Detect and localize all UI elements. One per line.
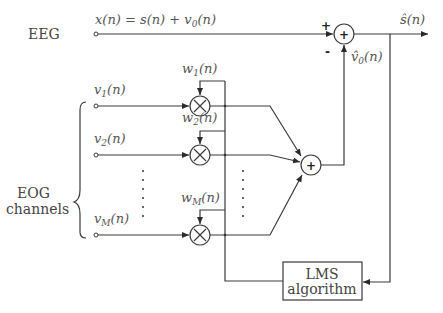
error-feedback-wire xyxy=(363,34,390,282)
weight-wire-m xyxy=(200,210,225,224)
junction xyxy=(224,234,227,237)
eeg-label: EEG xyxy=(28,26,60,42)
product-ellipsis xyxy=(242,170,244,217)
eog-label-line2: channels xyxy=(6,201,69,217)
input-label-1: v1(n) xyxy=(94,82,126,99)
lms-label-line2: algorithm xyxy=(287,281,356,297)
weight-bus xyxy=(225,81,283,281)
block-diagram: EEG x(n) = s(n) + v0(n) + + - ŝ(n) v̂0(n… xyxy=(0,0,443,313)
input-label-m: vM(n) xyxy=(94,211,129,228)
junction xyxy=(224,154,227,157)
product-wire-2 xyxy=(210,155,300,162)
inner-summer-plus-icon: + xyxy=(306,159,316,173)
weight-wire-2 xyxy=(200,131,225,144)
input-terminal-1 xyxy=(94,104,98,108)
input-label-2: v2(n) xyxy=(94,131,126,148)
channel-2: v2(n) w2(n) xyxy=(94,110,300,165)
weight-wire-1 xyxy=(200,81,225,95)
eeg-input-terminal xyxy=(94,32,98,36)
input-terminal-2 xyxy=(94,153,98,157)
main-summer-plus-icon: + xyxy=(339,28,349,42)
weight-label-2: w2(n) xyxy=(182,110,217,127)
eog-label-line1: EOG xyxy=(17,185,50,201)
junction xyxy=(224,105,227,108)
minus-sign: - xyxy=(325,45,330,59)
input-ellipsis xyxy=(142,170,144,217)
plus-sign: + xyxy=(321,19,331,33)
eeg-signal-label: x(n) = s(n) + v0(n) xyxy=(95,12,216,29)
weight-label-1: w1(n) xyxy=(182,61,217,78)
input-terminal-m xyxy=(94,233,98,237)
lms-label-line1: LMS xyxy=(305,266,338,282)
output-label: ŝ(n) xyxy=(400,12,425,27)
product-wire-m xyxy=(210,175,302,235)
channel-m: vM(n) wM(n) xyxy=(94,175,302,245)
eog-brace xyxy=(74,102,86,238)
estimate-wire xyxy=(321,45,344,165)
weight-label-m: wM(n) xyxy=(181,190,220,207)
estimate-label: v̂0(n) xyxy=(351,49,383,66)
